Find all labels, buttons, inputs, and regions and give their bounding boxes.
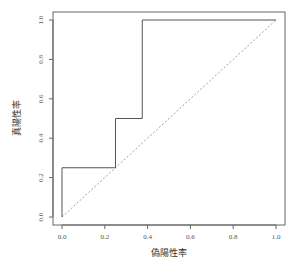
roc-chart: 0.00.20.40.60.81.0 0.00.20.40.60.81.0 偽陽… (0, 0, 302, 273)
y-tick-label: 0.4 (37, 133, 45, 142)
y-tick-label: 1.0 (37, 15, 45, 24)
x-tick-label: 0.0 (58, 233, 67, 241)
y-tick-label: 0.0 (37, 212, 45, 221)
y-tick-label: 0.8 (37, 55, 45, 64)
x-tick-label: 0.8 (229, 233, 238, 241)
x-axis-title: 偽陽性率 (151, 247, 187, 258)
y-tick-label: 0.2 (37, 173, 45, 182)
diagonal-reference-line (62, 20, 276, 217)
x-tick-label: 0.2 (100, 233, 109, 241)
x-axis: 0.00.20.40.60.81.0 (58, 225, 281, 241)
x-tick-label: 0.4 (143, 233, 152, 241)
y-axis-title: 真陽性率 (11, 100, 22, 136)
y-tick-label: 0.6 (37, 94, 45, 103)
x-tick-label: 0.6 (186, 233, 195, 241)
y-axis: 0.00.20.40.60.81.0 (37, 15, 53, 221)
x-tick-label: 1.0 (272, 233, 281, 241)
